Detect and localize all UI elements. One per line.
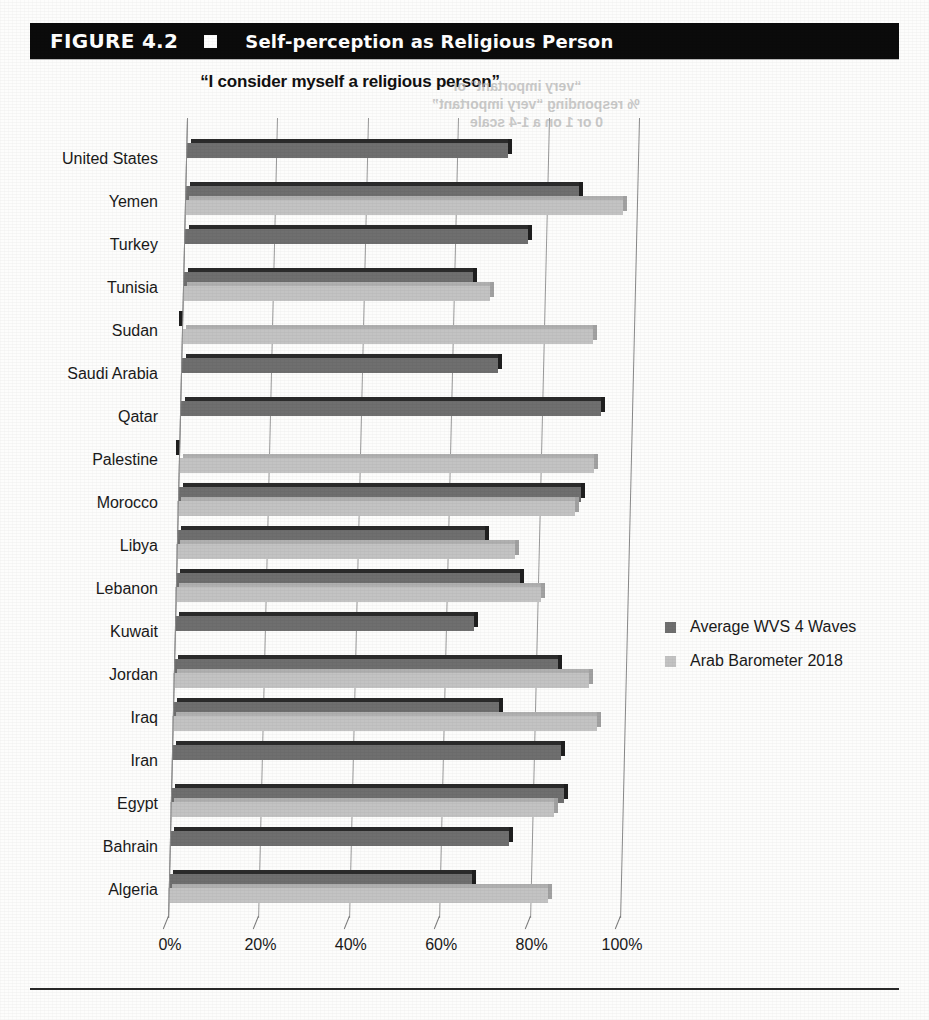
chart-subtitle: “I consider myself a religious person” xyxy=(0,72,700,92)
bar-algeria-arab-barometer-2018 xyxy=(168,888,548,903)
x-tick-100 xyxy=(615,916,621,929)
figure-header-bar: FIGURE 4.2 Self-perception as Religious … xyxy=(30,23,899,59)
category-label: Tunisia xyxy=(10,279,158,297)
bar-chart: United StatesYemenTurkeyTunisiaSudanSaud… xyxy=(0,118,929,968)
x-tick-40 xyxy=(344,916,350,929)
category-label: Libya xyxy=(10,537,158,555)
category-label: Sudan xyxy=(10,322,158,340)
chart-legend: Average WVS 4 WavesArab Barometer 2018 xyxy=(665,618,915,686)
category-label: Jordan xyxy=(10,666,158,684)
x-tick-80 xyxy=(524,916,530,929)
x-axis-label: 100% xyxy=(587,936,657,954)
category-label: Lebanon xyxy=(10,580,158,598)
bar-turkey-average-wvs-4-waves xyxy=(185,229,529,244)
bar-libya-arab-barometer-2018 xyxy=(176,544,515,559)
x-axis-label: 0% xyxy=(135,936,205,954)
category-label: United States xyxy=(10,150,158,168)
category-label: Morocco xyxy=(10,494,158,512)
legend-label: Average WVS 4 Waves xyxy=(690,618,856,636)
footer-rule xyxy=(30,988,899,990)
scan-bleedthrough-line-2: % responding “very important” xyxy=(432,96,640,112)
category-label: Bahrain xyxy=(10,838,158,856)
x-axis-label: 40% xyxy=(316,936,386,954)
bar-qatar-average-wvs-4-waves xyxy=(181,401,601,416)
category-label: Iraq xyxy=(10,709,158,727)
filled-square-icon xyxy=(204,35,217,48)
bar-jordan-arab-barometer-2018 xyxy=(173,673,589,688)
x-axis-label: 60% xyxy=(406,936,476,954)
bar-tunisia-arab-barometer-2018 xyxy=(183,286,490,301)
bar-kuwait-average-wvs-4-waves xyxy=(175,616,473,631)
scan-bleedthrough-line-1: “very important” or xyxy=(452,78,581,94)
category-label: Turkey xyxy=(10,236,158,254)
category-label: Algeria xyxy=(10,881,158,899)
bar-iraq-arab-barometer-2018 xyxy=(172,716,597,731)
bar-bahrain-average-wvs-4-waves xyxy=(170,831,509,846)
legend-label: Arab Barometer 2018 xyxy=(690,652,843,670)
category-label: Kuwait xyxy=(10,623,158,641)
figure-title: Self-perception as Religious Person xyxy=(245,31,613,52)
legend-item[interactable]: Arab Barometer 2018 xyxy=(665,652,915,670)
bar-morocco-arab-barometer-2018 xyxy=(177,501,575,516)
category-label: Egypt xyxy=(10,795,158,813)
bar-iran-average-wvs-4-waves xyxy=(172,745,561,760)
gridline-100 xyxy=(620,118,640,918)
bar-sudan-arab-barometer-2018 xyxy=(182,329,593,344)
category-label: Yemen xyxy=(10,193,158,211)
bar-yemen-arab-barometer-2018 xyxy=(185,200,623,215)
plot-area: United StatesYemenTurkeyTunisiaSudanSaud… xyxy=(0,118,700,938)
category-label: Palestine xyxy=(10,451,158,469)
bar-palestine-arab-barometer-2018 xyxy=(179,458,595,473)
legend-swatch-icon xyxy=(665,622,676,633)
x-tick-0 xyxy=(163,916,169,929)
x-axis-label: 20% xyxy=(225,936,295,954)
category-label: Saudi Arabia xyxy=(10,365,158,383)
category-label: Qatar xyxy=(10,408,158,426)
legend-item[interactable]: Average WVS 4 Waves xyxy=(665,618,915,636)
figure-number: FIGURE 4.2 xyxy=(50,29,178,53)
bar-egypt-arab-barometer-2018 xyxy=(170,802,554,817)
legend-swatch-icon xyxy=(665,656,676,667)
figure-page: FIGURE 4.2 Self-perception as Religious … xyxy=(0,0,929,1020)
bar-saudi-arabia-average-wvs-4-waves xyxy=(182,358,498,373)
bar-united-states-average-wvs-4-waves xyxy=(187,143,508,158)
bar-lebanon-arab-barometer-2018 xyxy=(175,587,541,602)
x-axis-label: 80% xyxy=(497,936,567,954)
category-label: Iran xyxy=(10,752,158,770)
x-tick-60 xyxy=(434,916,440,929)
